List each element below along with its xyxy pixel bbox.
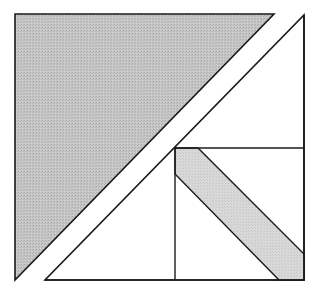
square-dissection-diagram (0, 0, 324, 293)
diagram-canvas (0, 0, 324, 293)
